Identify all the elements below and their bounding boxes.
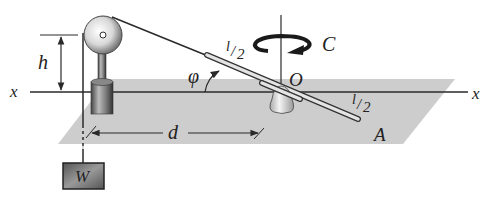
post-base-top [91,79,113,86]
svg-text:l: l [226,39,230,54]
phi-label: φ [188,65,199,88]
l-half-upper-label: l / 2 [226,39,245,62]
svg-text:2: 2 [237,46,245,62]
point-A-label: A [372,124,386,145]
x-axis-label-right: x [471,84,480,103]
horizontal-plane [58,79,455,144]
svg-text:/: / [230,43,237,59]
origin-label: O [289,69,303,90]
pulley-axle [100,32,106,38]
cable [112,17,208,56]
h-label: h [38,51,48,73]
svg-text:l: l [352,92,356,107]
mechanics-diagram: x x C h O φ l / 2 l / 2 A [0,0,498,201]
post-base-cylinder [91,82,113,114]
couple-arrow-icon [255,36,310,55]
weight-label: W [75,167,91,186]
couple-label: C [322,33,336,55]
x-axis-label-left: x [9,82,18,101]
svg-text:2: 2 [363,99,371,115]
d-label: d [168,121,179,143]
